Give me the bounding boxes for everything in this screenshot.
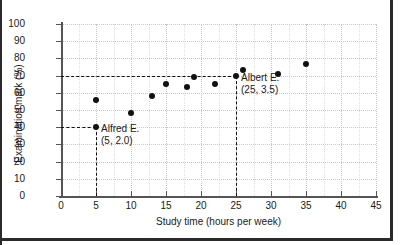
gridline-horizontal: [61, 179, 376, 181]
gridline-horizontal: [61, 162, 376, 164]
guide-line-vertical: [236, 76, 237, 196]
gridline-horizontal: [61, 41, 376, 43]
gridline-horizontal: [61, 110, 376, 112]
y-axis-tick: [56, 144, 63, 145]
plot-area: [61, 24, 376, 196]
guide-line-horizontal: [61, 127, 96, 128]
page-border-left: [0, 0, 2, 245]
page-frame: 0102030405060708090100051015202530354045…: [0, 0, 419, 245]
x-axis-tick: [131, 191, 132, 198]
y-axis-title: Examination mark (%): [13, 34, 24, 194]
guide-line-horizontal: [61, 76, 236, 77]
y-axis-tick: [56, 93, 63, 94]
x-axis-tick-label: 45: [362, 200, 390, 211]
y-axis-tick: [56, 24, 63, 25]
x-axis-tick: [306, 191, 307, 198]
annotation-coords: (25, 3.5): [241, 84, 279, 96]
data-point: [184, 84, 190, 90]
x-axis-tick-label: 25: [222, 200, 250, 211]
y-axis-tick: [56, 162, 63, 163]
y-axis-tick-label: 100: [0, 19, 25, 29]
x-axis-tick-label: 5: [82, 200, 110, 211]
x-axis-tick-label: 40: [327, 200, 355, 211]
gridline-horizontal: [61, 58, 376, 60]
annotation-name: Alfred E.: [101, 123, 139, 135]
y-axis-tick: [56, 179, 63, 180]
x-axis-line: [59, 196, 378, 198]
x-axis-tick-label: 35: [292, 200, 320, 211]
x-axis-tick: [341, 191, 342, 198]
annotation-name: Albert E.: [241, 72, 279, 84]
gridline-horizontal: [61, 93, 376, 95]
gridline-vertical: [376, 24, 378, 196]
gridline-horizontal: [61, 24, 376, 26]
x-axis-tick-label: 15: [152, 200, 180, 211]
scatter-chart: 0102030405060708090100051015202530354045…: [0, 0, 393, 238]
x-axis-tick-label: 30: [257, 200, 285, 211]
page-margin-right: [393, 0, 419, 245]
point-annotation: Albert E.(25, 3.5): [241, 72, 279, 96]
y-axis-tick: [56, 110, 63, 111]
x-axis-tick: [61, 191, 62, 198]
data-point: [93, 97, 99, 103]
guide-line-vertical: [96, 127, 97, 196]
x-axis-tick: [271, 191, 272, 198]
x-axis-title: Study time (hours per week): [61, 216, 376, 227]
y-axis-tick: [56, 58, 63, 59]
x-axis-tick-label: 0: [47, 200, 75, 211]
page-border-bottom: [0, 238, 419, 241]
x-axis-tick: [166, 191, 167, 198]
point-annotation: Alfred E.(5, 2.0): [101, 123, 139, 147]
x-axis-tick: [376, 191, 377, 198]
x-axis-tick-label: 20: [187, 200, 215, 211]
x-axis-tick: [201, 191, 202, 198]
annotation-coords: (5, 2.0): [101, 135, 139, 147]
y-axis-tick: [56, 41, 63, 42]
x-axis-tick-label: 10: [117, 200, 145, 211]
